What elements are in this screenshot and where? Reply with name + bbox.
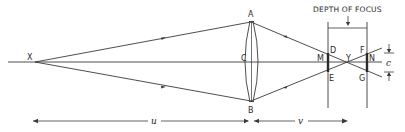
ray-arrow-icon bbox=[161, 37, 166, 40]
depth-of-focus-title: DEPTH OF FOCUS bbox=[313, 5, 382, 14]
u-right-arrow-icon bbox=[244, 119, 249, 123]
lens bbox=[245, 21, 258, 102]
ray-arrow-icon bbox=[161, 86, 166, 89]
label-e: E bbox=[329, 74, 334, 83]
depth-of-focus-diagram: DEPTH OF FOCUS c X A B C D E M Y F N G u bbox=[0, 0, 405, 132]
label-f: F bbox=[360, 46, 365, 55]
label-n: N bbox=[369, 54, 375, 63]
u-label: u bbox=[151, 116, 157, 126]
blur-circle-label: c bbox=[386, 58, 391, 68]
ray-arrow-icon bbox=[283, 86, 288, 89]
u-left-arrow-icon bbox=[33, 119, 38, 123]
label-g: G bbox=[359, 74, 365, 83]
v-label: v bbox=[298, 116, 303, 126]
ray-x-to-b bbox=[35, 62, 251, 101]
label-a: A bbox=[248, 10, 254, 19]
label-c: C bbox=[241, 54, 247, 63]
label-y: Y bbox=[345, 54, 351, 63]
label-m: M bbox=[317, 54, 324, 63]
label-b: B bbox=[248, 106, 254, 115]
depth-pointer-arrow-icon bbox=[346, 22, 350, 26]
label-x: X bbox=[27, 53, 33, 62]
v-right-arrow-icon bbox=[342, 119, 348, 124]
ray-x-to-a bbox=[35, 22, 251, 62]
label-d: D bbox=[330, 46, 336, 55]
